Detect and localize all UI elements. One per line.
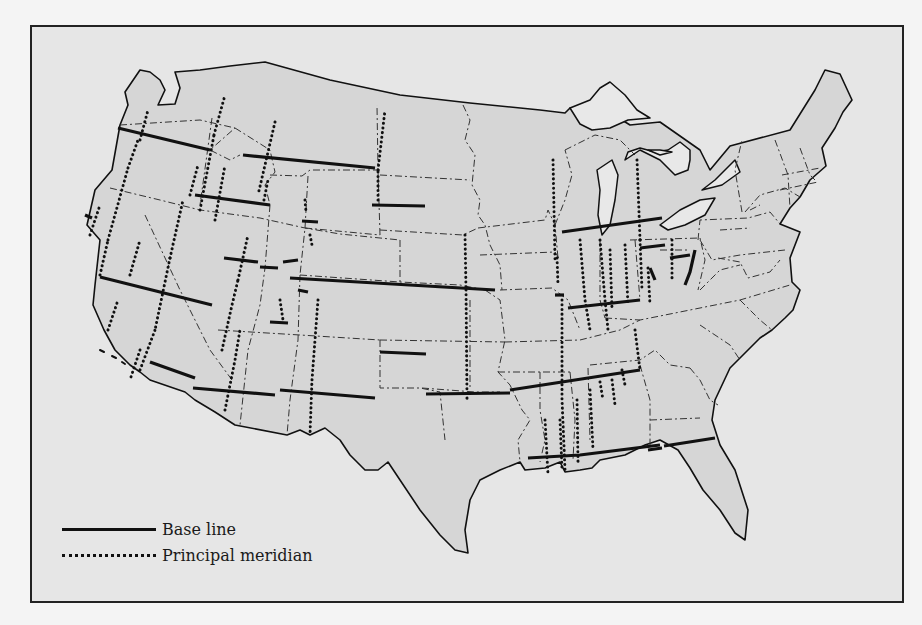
legend: Base line Principal meridian	[62, 516, 313, 568]
base-line	[270, 322, 288, 323]
legend-item-base-line: Base line	[62, 516, 313, 542]
base-line	[380, 352, 426, 354]
legend-label: Principal meridian	[162, 546, 313, 565]
base-line	[426, 393, 510, 394]
dotted-line-swatch	[62, 554, 156, 557]
island	[112, 356, 116, 358]
legend-item-principal-meridian: Principal meridian	[62, 542, 313, 568]
base-line	[648, 448, 662, 450]
us-outline	[87, 62, 852, 553]
solid-line-swatch	[62, 528, 156, 531]
legend-label: Base line	[162, 520, 236, 539]
island	[100, 350, 104, 352]
island	[122, 362, 125, 364]
base-line	[283, 260, 298, 262]
base-line	[298, 290, 308, 292]
principal-meridian	[465, 235, 466, 290]
base-line	[372, 205, 425, 206]
base-line	[260, 267, 278, 268]
base-line	[302, 221, 318, 222]
lake	[570, 82, 650, 130]
principal-meridian	[557, 258, 558, 285]
